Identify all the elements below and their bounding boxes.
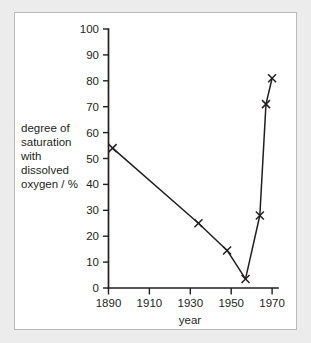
- y-tick-label: 90: [86, 49, 99, 61]
- y-tick-label: 60: [86, 127, 99, 139]
- y-axis-title-line: degree of: [21, 122, 70, 134]
- y-axis-title-line: with: [20, 150, 41, 162]
- data-series-line: [113, 78, 273, 279]
- y-tick-label: 80: [86, 75, 99, 87]
- x-tick-label: 1950: [218, 297, 244, 309]
- y-tick-label: 40: [86, 178, 99, 190]
- y-tick-label: 20: [86, 230, 99, 242]
- x-axis-title: year: [179, 314, 202, 326]
- x-tick-label: 1970: [259, 297, 285, 309]
- y-tick-label: 70: [86, 101, 99, 113]
- x-tick-marks: [109, 288, 273, 295]
- y-tick-label: 50: [86, 153, 99, 165]
- data-point-marker: [194, 219, 202, 227]
- figure-root: 0 10 20 30 40 50 60 70 80 90 100 1890 19…: [0, 0, 311, 343]
- y-axis-title-line: oxygen / %: [21, 178, 78, 190]
- y-tick-label: 100: [80, 23, 99, 35]
- data-point-marker: [223, 246, 231, 254]
- y-axis-title-line: dissolved: [21, 164, 69, 176]
- y-tick-label: 10: [86, 256, 99, 268]
- x-tick-label: 1910: [137, 297, 163, 309]
- x-tick-label: 1890: [96, 297, 122, 309]
- x-tick-label: 1930: [178, 297, 204, 309]
- data-point-marker: [109, 144, 117, 152]
- y-tick-label: 30: [86, 204, 99, 216]
- y-axis-title-line: saturation: [21, 136, 72, 148]
- chart-svg: 0 10 20 30 40 50 60 70 80 90 100 1890 19…: [0, 0, 311, 343]
- y-tick-label: 0: [93, 282, 99, 294]
